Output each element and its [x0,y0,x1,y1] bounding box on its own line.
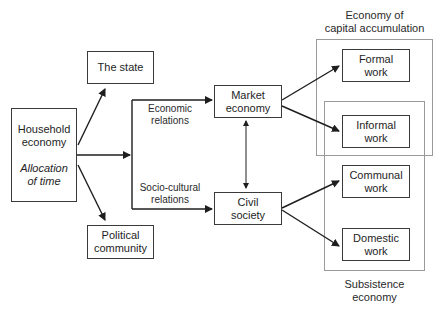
formal-work-node: Formal work [342,49,410,82]
economic-relations-label: Economic relations [138,103,202,127]
household-economy-node: Household economy Allocation of time [11,108,77,202]
socio-cultural-relations-label: Socio-cultural relations [134,182,206,206]
informal-work-node: Informal work [342,115,410,148]
the-state-node: The state [87,51,154,84]
market-economy-node: Market economy [214,85,282,118]
political-community-node: Political community [87,225,154,259]
domestic-work-node: Domestic work [342,228,410,261]
civil-society-node: Civil society [214,192,282,225]
communal-work-node: Communal work [342,165,410,198]
